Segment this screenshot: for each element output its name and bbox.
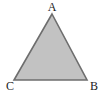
vertex-label-c: C [6,79,14,93]
vertex-label-a: A [48,0,57,14]
triangle-diagram-svg: A B C [0,0,103,93]
triangle-figure: A B C [0,0,103,93]
vertex-label-b: B [90,79,98,93]
